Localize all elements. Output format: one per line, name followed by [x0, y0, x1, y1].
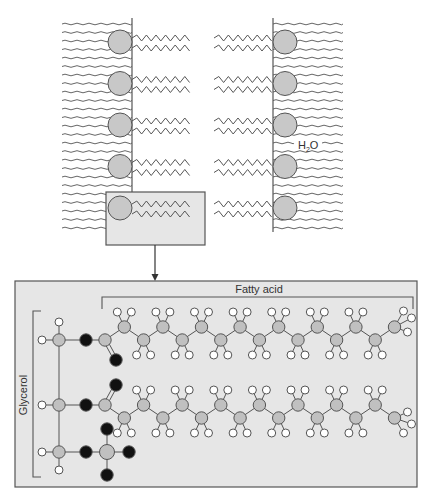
hydrogen-atom: [147, 351, 155, 359]
lipid-head-group: [273, 155, 297, 179]
water-wave: [273, 23, 343, 25]
hydrogen-atom: [340, 386, 348, 394]
hydrogen-atom: [378, 386, 386, 394]
hydrogen-atom: [359, 308, 367, 316]
hydrogen-atom: [171, 386, 179, 394]
carbon-atom: [53, 446, 65, 458]
lipid-tail: [132, 87, 190, 93]
lipid-head-group: [273, 72, 297, 96]
hydrogen-atom: [248, 386, 256, 394]
hydrogen-atom: [320, 429, 328, 437]
lipid-tail: [214, 170, 272, 176]
hydrogen-atom: [38, 336, 46, 344]
carbon-atom: [53, 399, 65, 411]
water-wave: [322, 142, 343, 144]
hydrogen-atom: [306, 429, 314, 437]
lipid-tail: [214, 201, 272, 207]
water-wave: [62, 151, 132, 153]
lipid-tail: [214, 118, 272, 124]
carbon-atom: [215, 399, 227, 411]
water-wave: [273, 185, 343, 187]
hydrogen-atom: [127, 429, 135, 437]
lipid-tail: [132, 45, 190, 51]
lipid-tail: [214, 160, 272, 166]
hydrogen-atom: [229, 429, 237, 437]
water-wave: [62, 57, 132, 59]
oxygen-atom: [80, 334, 92, 346]
hydrogen-atom: [400, 429, 408, 437]
carbon-atom: [388, 412, 400, 424]
hydrogen-atom: [166, 429, 174, 437]
hydrogen-atom: [38, 448, 46, 456]
hydrogen-atom: [268, 429, 276, 437]
hydrogen-atom: [404, 408, 412, 416]
lipid-tail: [214, 128, 272, 134]
lipid-tail: [132, 77, 190, 83]
lipid-tail: [132, 118, 190, 124]
carbon-atom: [157, 412, 169, 424]
hydrogen-atom: [127, 308, 135, 316]
hydrogen-atom: [326, 351, 334, 359]
hydrogen-atom: [400, 307, 408, 315]
hydrogen-atom: [185, 386, 193, 394]
hydrogen-atom: [243, 429, 251, 437]
hydrogen-atom: [147, 386, 155, 394]
oxygen-atom: [101, 423, 113, 435]
hydrogen-atom: [113, 308, 121, 316]
water-wave: [273, 142, 294, 144]
water-wave: [62, 142, 132, 144]
hydrogen-atom: [205, 429, 213, 437]
carbon-atom: [369, 399, 381, 411]
carbon-atom: [311, 321, 323, 333]
carbon-atom: [311, 412, 323, 424]
carbon-atom: [273, 412, 285, 424]
carbon-atom: [388, 321, 400, 333]
carbon-atom: [350, 321, 362, 333]
hydrogen-atom: [224, 351, 232, 359]
hydrogen-atom: [133, 351, 141, 359]
lipid-tail: [132, 128, 190, 134]
hydrogen-atom: [243, 308, 251, 316]
lipid-tail: [132, 35, 190, 41]
hydrogen-atom: [205, 308, 213, 316]
hydrogen-atom: [345, 308, 353, 316]
lipid-tail: [132, 160, 190, 166]
water-wave: [62, 23, 132, 25]
hydrogen-atom: [340, 351, 348, 359]
water-wave: [273, 57, 343, 59]
hydrogen-atom: [408, 314, 416, 322]
lipid-head-group: [273, 30, 297, 54]
carbon-atom: [137, 399, 149, 411]
carbon-atom: [273, 321, 285, 333]
carbon-atom: [292, 334, 304, 346]
phosphorus-atom: [100, 445, 115, 460]
hydrogen-atom: [210, 386, 218, 394]
oxygen-atom: [80, 399, 92, 411]
hydrogen-atom: [210, 351, 218, 359]
glycerol-label: Glycerol: [17, 375, 29, 415]
carbon-atom: [195, 321, 207, 333]
oxygen-atom: [110, 354, 122, 366]
hydrogen-atom: [287, 351, 295, 359]
hydrogen-atom: [185, 351, 193, 359]
carbon-atom: [234, 321, 246, 333]
hydrogen-atom: [262, 386, 270, 394]
carbon-atom: [118, 321, 130, 333]
carbon-atom: [215, 334, 227, 346]
hydrogen-atom: [152, 429, 160, 437]
carbon-atom: [330, 399, 342, 411]
hydrogen-atom: [133, 386, 141, 394]
oxygen-atom: [101, 469, 113, 481]
lipid-head-group: [108, 30, 132, 54]
hydrogen-atom: [408, 420, 416, 428]
hydrogen-atom: [320, 308, 328, 316]
carbon-atom: [234, 412, 246, 424]
hydrogen-atom: [364, 386, 372, 394]
carbon-atom: [369, 334, 381, 346]
lipid-tail: [214, 45, 272, 51]
hydrogen-atom: [359, 429, 367, 437]
oxygen-atom: [110, 379, 122, 391]
hydrogen-atom: [306, 308, 314, 316]
hydrogen-atom: [55, 318, 63, 326]
carbon-atom: [99, 334, 111, 346]
